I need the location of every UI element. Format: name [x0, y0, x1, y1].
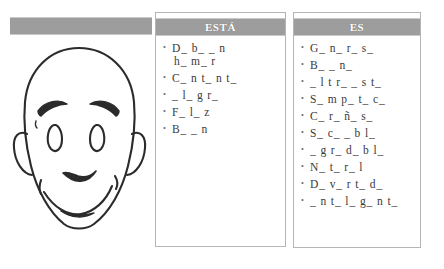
word-column-es: ES G_ n_ r_ s_ B_ _ n_ _ l t r_ _ s t_ S… [293, 12, 421, 248]
list-item[interactable]: S_ m p_ t_ c_ [301, 93, 416, 106]
illustration-panel [0, 0, 152, 269]
list-item[interactable]: N_ t_ r_ l [301, 161, 416, 174]
word-line-1: _ l_ g r_ [172, 89, 219, 101]
list-item[interactable]: G_ n_ r_ s_ [301, 42, 416, 55]
word-line-1: _ l t r_ _ s t_ [310, 76, 382, 88]
word-line-1: S_ c_ _ b l_ [310, 127, 376, 139]
smiling-face-illustration [6, 42, 152, 247]
word-column-esta: ESTÁ D_ b_ _ n h_ m_ r C_ n t_ n t_ _ l_… [155, 12, 286, 247]
word-line-1: N_ t_ r_ l [310, 161, 363, 173]
list-item[interactable]: _ g r_ d_ b l_ [301, 144, 416, 157]
list-item[interactable]: C_ r_ ñ_ s_ [301, 110, 416, 123]
list-item[interactable]: _ n t_ l_ g_ n t_ [301, 195, 416, 208]
list-item[interactable]: _ l t r_ _ s t_ [301, 76, 416, 89]
list-item[interactable]: C_ n t_ n t_ [163, 72, 281, 85]
list-item[interactable]: D_ v_ r t_ d_ [301, 178, 416, 191]
word-line-1: F_ l_ z [172, 106, 210, 118]
column-header-esta: ESTÁ [156, 18, 285, 36]
word-line-1: _ n t_ l_ g_ n t_ [310, 195, 398, 207]
word-line-1: B_ _ n_ [310, 59, 353, 71]
list-item[interactable]: D_ b_ _ n h_ m_ r [163, 42, 281, 68]
list-item[interactable]: S_ c_ _ b l_ [301, 127, 416, 140]
word-line-1: C_ n t_ n t_ [172, 72, 237, 84]
word-list-esta: D_ b_ _ n h_ m_ r C_ n t_ n t_ _ l_ g r_… [163, 42, 281, 140]
word-list-es: G_ n_ r_ s_ B_ _ n_ _ l t r_ _ s t_ S_ m… [301, 42, 416, 212]
left-blank-header-bar [10, 17, 152, 35]
word-line-2: h_ m_ r [172, 55, 281, 68]
column-header-es: ES [294, 18, 420, 36]
list-item[interactable]: B_ _ n_ [301, 59, 416, 72]
word-line-1: B_ _ n [172, 123, 208, 135]
face-drawing-svg [6, 42, 152, 247]
list-item[interactable]: F_ l_ z [163, 106, 281, 119]
list-item[interactable]: B_ _ n [163, 123, 281, 136]
word-line-1: _ g r_ d_ b l_ [310, 144, 384, 156]
list-item[interactable]: _ l_ g r_ [163, 89, 281, 102]
word-line-1: G_ n_ r_ s_ [310, 42, 374, 54]
word-line-1: S_ m p_ t_ c_ [310, 93, 386, 105]
word-line-1: D_ b_ _ n [172, 42, 226, 54]
word-line-1: D_ v_ r t_ d_ [310, 178, 383, 190]
word-line-1: C_ r_ ñ_ s_ [310, 110, 373, 122]
